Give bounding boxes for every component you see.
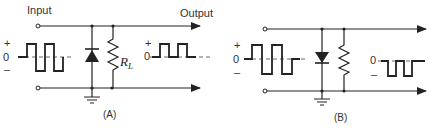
svg-text:–: – — [234, 66, 241, 78]
output-waveform-b: 0 – — [370, 54, 425, 80]
bottom-wire-a — [36, 86, 200, 90]
panel-a: Input Output RL — [3, 4, 213, 120]
top-wire-a — [36, 24, 200, 28]
diode-icon — [315, 29, 329, 91]
svg-text:+: + — [4, 37, 10, 49]
ground-icon — [314, 91, 330, 105]
svg-text:0: 0 — [233, 53, 239, 65]
caption-b: (B) — [334, 112, 347, 123]
svg-text:0: 0 — [370, 54, 376, 66]
input-label: Input — [27, 4, 51, 16]
svg-text:+: + — [145, 37, 151, 49]
resistor-icon — [339, 29, 349, 91]
svg-text:0: 0 — [144, 50, 150, 62]
svg-text:0: 0 — [3, 51, 9, 63]
diode-clipper-diagram: Input Output RL — [0, 0, 432, 130]
input-waveform-a: + 0 – — [3, 37, 74, 75]
svg-text:–: – — [4, 63, 11, 75]
diode-icon — [85, 26, 99, 88]
caption-a: (A) — [103, 109, 116, 120]
resistor-label: RL — [119, 54, 133, 71]
resistor-icon: RL — [108, 26, 133, 88]
output-label: Output — [180, 7, 213, 19]
panel-b: + 0 – 0 – (B) — [233, 27, 426, 123]
svg-text:–: – — [371, 68, 378, 80]
output-waveform-a: + 0 — [144, 37, 212, 62]
svg-text:+: + — [234, 39, 240, 51]
ground-icon — [84, 88, 100, 103]
input-waveform-b: + 0 – — [233, 39, 306, 78]
